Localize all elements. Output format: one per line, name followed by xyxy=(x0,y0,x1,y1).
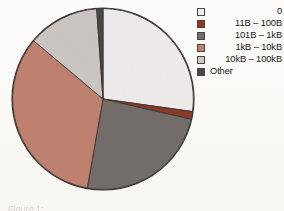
legend-item-1kb-10kb[interactable]: 1kB – 10kB xyxy=(197,42,283,54)
legend-item-0[interactable]: 0 xyxy=(197,6,283,18)
pie-chart-svg xyxy=(11,7,195,191)
legend-label-11b-100b: 11B – 100B xyxy=(207,18,283,29)
legend-swatch-101b-1kb xyxy=(197,32,205,40)
legend-swatch-11b-100b xyxy=(197,20,205,28)
legend-item-101b-1kb[interactable]: 101B – 1kB xyxy=(197,30,283,42)
legend-swatch-other xyxy=(197,68,205,76)
legend-swatch-0 xyxy=(197,8,205,16)
pie-chart xyxy=(11,7,195,191)
legend-label-101b-1kb: 101B – 1kB xyxy=(207,30,283,41)
figure-caption: Figure 1: xyxy=(8,204,268,211)
figure-container: 0 11B – 100B 101B – 1kB 1kB – 10kB 10kB … xyxy=(0,0,284,211)
pie-slice[interactable] xyxy=(103,9,193,112)
legend-label-0: 0 xyxy=(207,6,283,17)
legend-item-other[interactable]: Other xyxy=(197,66,283,78)
legend-label-other: Other xyxy=(207,66,283,77)
legend: 0 11B – 100B 101B – 1kB 1kB – 10kB 10kB … xyxy=(197,6,283,78)
legend-item-10kb-100kb[interactable]: 10kB – 100kB xyxy=(197,54,283,66)
legend-label-10kb-100kb: 10kB – 100kB xyxy=(207,54,283,65)
legend-label-1kb-10kb: 1kB – 10kB xyxy=(207,42,283,53)
legend-swatch-1kb-10kb xyxy=(197,44,205,52)
legend-item-11b-100b[interactable]: 11B – 100B xyxy=(197,18,283,30)
legend-swatch-10kb-100kb xyxy=(197,56,205,64)
